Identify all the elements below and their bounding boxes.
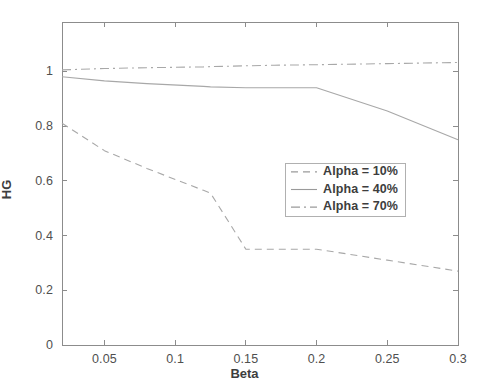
y-axis-title: HG xyxy=(0,180,14,200)
y-tick-label: 0.8 xyxy=(0,119,53,133)
series-line-2 xyxy=(62,77,458,140)
x-tick-label: 0.05 xyxy=(92,352,117,366)
y-tick-label: 0.2 xyxy=(0,283,53,297)
x-tick-label: 0.15 xyxy=(233,352,258,366)
legend-label-2: Alpha = 40% xyxy=(323,182,398,196)
y-tick-label: 0.4 xyxy=(0,229,53,243)
y-tick-label: 1 xyxy=(0,64,53,78)
series-line-3 xyxy=(62,63,458,70)
y-tick-label: 0 xyxy=(0,338,53,352)
chart-figure: 0.050.10.150.20.250.300.20.40.60.81 Alph… xyxy=(0,0,489,389)
legend-label-3: Alpha = 70% xyxy=(323,199,398,213)
legend-label-1: Alpha = 10% xyxy=(323,164,398,178)
x-tick-label: 0.25 xyxy=(375,352,400,366)
x-tick-label: 0.3 xyxy=(449,352,467,366)
x-axis-title: Beta xyxy=(0,366,489,381)
plot-area xyxy=(0,0,489,389)
x-tick-label: 0.2 xyxy=(308,352,326,366)
x-tick-label: 0.1 xyxy=(166,352,184,366)
